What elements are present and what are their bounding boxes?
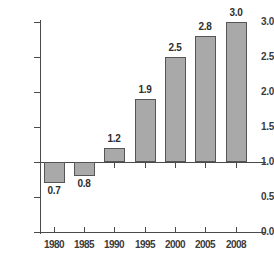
- bar-label-1995: 1.9: [130, 85, 160, 95]
- bar-label-2000: 2.5: [160, 43, 190, 53]
- bar-1985[interactable]: [74, 162, 95, 176]
- y-tick-6: [34, 22, 40, 23]
- x-tick-1990: [114, 227, 115, 232]
- x-tick-2008: [236, 227, 237, 232]
- x-tick-1985: [84, 227, 85, 232]
- bar-label-1980: 0.7: [39, 186, 69, 196]
- y-tick-4: [34, 92, 40, 93]
- y-tick-1: [34, 197, 40, 198]
- baseline-tick-2005: [205, 163, 206, 168]
- bar-label-2005: 2.8: [190, 22, 220, 32]
- y-axis-line: [40, 20, 41, 234]
- bar-1980[interactable]: [44, 162, 65, 183]
- bar-label-1985: 0.8: [69, 179, 99, 189]
- x-label-2008: 2008: [216, 240, 256, 250]
- baseline-tick-2008: [236, 163, 237, 168]
- y-tick-label-6: 3.0: [246, 17, 274, 27]
- baseline-tick-1995: [145, 163, 146, 168]
- y-tick-5: [34, 57, 40, 58]
- x-tick-1995: [145, 227, 146, 232]
- y-tick-label-1: 0.5: [246, 192, 274, 202]
- bar-2008[interactable]: [226, 22, 247, 162]
- baseline-tick-2000: [175, 163, 176, 168]
- y-tick-0: [34, 232, 40, 233]
- y-tick-label-2: 1.0: [246, 157, 274, 167]
- x-axis-line: [40, 232, 266, 233]
- baseline-tick-1990: [114, 163, 115, 168]
- y-tick-label-3: 1.5: [246, 122, 274, 132]
- x-tick-2005: [205, 227, 206, 232]
- y-tick-3: [34, 127, 40, 128]
- bar-1995[interactable]: [135, 99, 156, 162]
- y-tick-label-5: 2.5: [246, 52, 274, 62]
- bar-label-2008: 3.0: [221, 8, 251, 18]
- bar-label-1990: 1.2: [99, 134, 129, 144]
- bar-2000[interactable]: [165, 57, 186, 162]
- x-tick-1980: [54, 227, 55, 232]
- y-tick-label-4: 2.0: [246, 87, 274, 97]
- bar-chart: 0.0 0.5 1.0 1.5 2.0 2.5 3.0 0.7 0.8 1.2 …: [0, 0, 274, 264]
- y-tick-2: [34, 162, 40, 163]
- x-tick-2000: [175, 227, 176, 232]
- bar-2005[interactable]: [195, 36, 216, 162]
- y-tick-label-0: 0.0: [246, 227, 274, 237]
- bar-1990[interactable]: [104, 148, 125, 162]
